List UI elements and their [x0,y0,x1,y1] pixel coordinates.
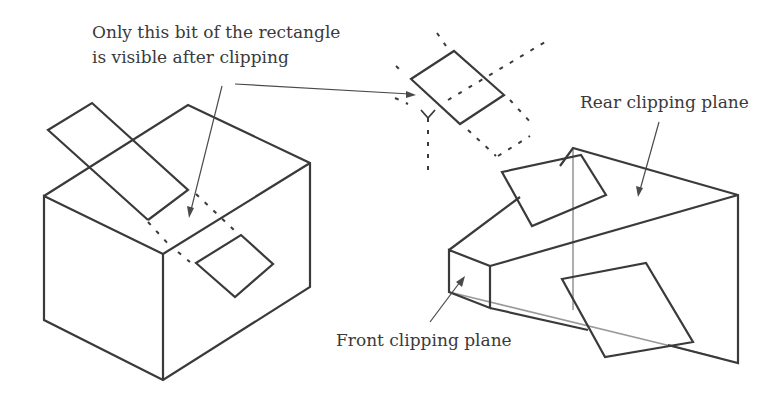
dashed-edge [395,98,408,104]
frustum-top-left-edge [449,197,520,250]
rear-plane-label: Rear clipping plane [580,92,749,112]
clip-note-line1: Only this bit of the rectangle [92,22,340,42]
front-clipping-face [449,250,490,308]
arrow-to-box [191,86,222,210]
front-plane-label: Front clipping plane [336,330,512,350]
arrowhead-icon [187,206,194,218]
side-rectangle [196,235,273,297]
hidden-edge-3 [178,252,190,262]
clip-note-line2: is visible after clipping [92,47,289,67]
box-with-rectangle [44,103,310,380]
upper-rectangle [502,155,606,226]
axis-fork-icon [421,110,435,118]
top-rectangle [48,103,188,220]
clipped-rectangle-detail [395,33,545,178]
visible-rectangle [411,51,504,124]
frustum-bottom-edge [490,308,588,330]
arrowhead-icon [406,91,416,98]
dashed-edge [437,33,446,46]
arrow-to-detail [235,84,410,94]
hidden-edge-1 [148,222,172,248]
lower-rectangle [562,263,693,357]
dashed-edge [468,130,496,156]
clipping-diagram: Only this bit of the rectangle is visibl… [0,0,784,396]
arrowhead-icon [636,186,643,197]
arrow-to-rear-plane [640,122,659,190]
arrow-to-front-plane [430,282,460,322]
dashed-edge [448,42,545,100]
dashed-edge [498,136,530,156]
box-outline [44,105,310,380]
dashed-edge [396,66,404,74]
frustum-top-right-edge [490,195,738,266]
dashed-edge [510,100,532,124]
